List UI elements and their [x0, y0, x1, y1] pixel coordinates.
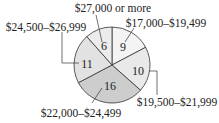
label-19500-21999: $19,500–$21,999 [137, 96, 218, 109]
label-22000-24499: $22,000–$24,499 [41, 107, 122, 120]
leader-19500-21999 [149, 71, 157, 95]
value-19500-21999: 10 [132, 64, 144, 78]
label-17000-19499: $17,000–$19,499 [126, 17, 207, 30]
value-17000-19499: 9 [120, 40, 126, 54]
value-24500-26999: 11 [81, 57, 93, 71]
label-24500-26999: $24,500–$26,999 [6, 21, 87, 34]
label-27000-more: $27,000 or more [75, 2, 151, 15]
value-22000-24499: 16 [104, 79, 116, 93]
pie-chart: 9 10 16 11 6 $27,000 or more $17,000–$19… [0, 0, 219, 123]
